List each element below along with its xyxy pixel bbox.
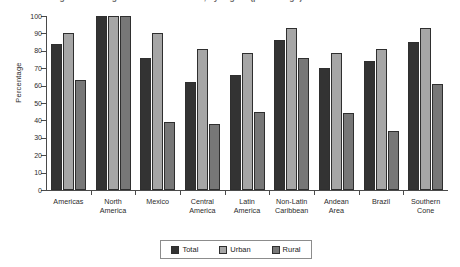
x-tick (314, 190, 315, 195)
y-tick-label-80: 80 (16, 47, 42, 54)
x-axis-line (46, 190, 448, 191)
bar-urban (152, 33, 163, 190)
y-tick-label-20: 20 (16, 152, 42, 159)
chart-title-text: Coverage of drinking water and sanitatio… (30, 0, 302, 2)
x-tick (91, 190, 92, 195)
y-tick-label-60: 60 (16, 82, 42, 89)
bar-total (364, 61, 375, 190)
bar-group (51, 16, 86, 190)
bar-group (364, 16, 399, 190)
bar-rural (432, 84, 443, 190)
bar-group (96, 16, 131, 190)
bar-urban (420, 28, 431, 190)
bar-urban (286, 28, 297, 190)
legend-swatch-urban-icon (219, 246, 227, 254)
legend-swatch-total-icon (171, 246, 179, 254)
y-tick-label-40: 40 (16, 117, 42, 124)
chart-title-clipped: Coverage of drinking water and sanitatio… (0, 0, 460, 5)
legend-label-urban: Urban (230, 245, 250, 254)
bar-group (319, 16, 354, 190)
legend-swatch-rural-icon (272, 246, 280, 254)
bar-rural (164, 122, 175, 190)
bar-group (140, 16, 175, 190)
y-tick-label-70: 70 (16, 65, 42, 72)
chart-legend: Total Urban Rural (160, 240, 312, 259)
bar-total (274, 40, 285, 190)
y-tick-label-10: 10 (16, 169, 42, 176)
legend-item-rural: Rural (272, 245, 301, 254)
x-tick (225, 190, 226, 195)
bar-rural (298, 58, 309, 190)
legend-item-total: Total (171, 245, 198, 254)
y-tick-label-90: 90 (16, 30, 42, 37)
x-category-label-line: America (77, 206, 149, 215)
bar-urban (197, 49, 208, 190)
y-tick-label-0: 0 (16, 187, 42, 194)
x-tick (403, 190, 404, 195)
bar-rural (388, 131, 399, 190)
bar-urban (376, 49, 387, 190)
bar-total (140, 58, 151, 190)
bar-total (319, 68, 330, 190)
x-category-label-line: Area (300, 206, 372, 215)
bar-chart: Coverage of drinking water and sanitatio… (0, 0, 460, 267)
y-tick-label-100: 100 (16, 13, 42, 20)
bar-urban (242, 53, 253, 190)
bar-total (230, 75, 241, 190)
bar-rural (75, 80, 86, 190)
x-tick (180, 190, 181, 195)
legend-label-total: Total (182, 245, 198, 254)
x-category-label-line: Southern (390, 197, 460, 206)
y-tick-label-30: 30 (16, 134, 42, 141)
x-category-label-line: Cone (390, 206, 460, 215)
bar-urban (108, 16, 119, 190)
bar-total (185, 82, 196, 190)
x-tick (135, 190, 136, 195)
plot-area: 0102030405060708090100 AmericasNorthAmer… (46, 16, 448, 190)
bar-rural (209, 124, 220, 190)
x-category-label: SouthernCone (390, 197, 460, 215)
x-tick (269, 190, 270, 195)
bar-total (51, 44, 62, 190)
bar-group (185, 16, 220, 190)
x-tick (359, 190, 360, 195)
legend-item-urban: Urban (219, 245, 250, 254)
bar-rural (343, 113, 354, 190)
bar-group (230, 16, 265, 190)
y-axis-line (46, 16, 47, 190)
legend-label-rural: Rural (283, 245, 301, 254)
y-tick-label-50: 50 (16, 100, 42, 107)
bar-urban (331, 53, 342, 190)
bar-group (408, 16, 443, 190)
bar-total (96, 16, 107, 190)
bar-rural (120, 16, 131, 190)
bar-total (408, 42, 419, 190)
bar-group (274, 16, 309, 190)
bar-urban (63, 33, 74, 190)
bar-rural (254, 112, 265, 190)
